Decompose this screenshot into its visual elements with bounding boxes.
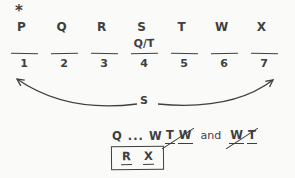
swap-arrow-left-curve: [17, 79, 137, 106]
letter-s: S: [122, 20, 162, 34]
swap-double-arrow: [6, 70, 286, 116]
slot-1-number: 1: [4, 57, 44, 70]
slots-row: 1 2 3 4 5 6 7: [4, 53, 284, 70]
conjunction-and: and: [201, 129, 222, 142]
forbidden-pair-tw: TW: [164, 128, 194, 146]
slot-6-number: 6: [204, 57, 244, 70]
forbidden-pair-wt: WT: [228, 128, 258, 146]
letter-t: T: [162, 20, 202, 34]
slot-4: 4: [124, 53, 164, 70]
boxed-letter-r: R: [121, 150, 132, 165]
swap-arrow-right-curve: [158, 80, 273, 105]
letter-p: P: [2, 20, 42, 34]
slot-6: 6: [204, 53, 244, 70]
rule-rx-block-box: R X: [111, 146, 164, 170]
slot-3-number: 3: [84, 57, 124, 70]
slot-5-number: 5: [164, 57, 204, 70]
slot-5-blank-line: [170, 53, 197, 54]
letter-x: X: [242, 20, 282, 34]
swap-arrow-label: S: [140, 94, 148, 107]
slot-7-number: 7: [244, 57, 284, 70]
sequencing-game-diagram: * P Q R S T W X Q/T 1 2 3 4 5: [0, 0, 295, 178]
star-annotation: *: [15, 2, 23, 20]
slot-5: 5: [164, 53, 204, 70]
slot-3: 3: [84, 53, 124, 70]
letter-r: R: [82, 20, 122, 34]
slot-2-number: 2: [44, 57, 84, 70]
slot-7-blank-line: [250, 53, 277, 54]
slot-4-note: Q/T: [127, 36, 161, 50]
letter-q: Q: [42, 20, 82, 34]
slot-4-number: 4: [124, 57, 164, 70]
slot-2: 2: [44, 53, 84, 70]
slot-7: 7: [244, 53, 284, 70]
slot-3-blank-line: [90, 53, 117, 54]
slot-1-blank-line: [10, 53, 37, 54]
boxed-letter-x: X: [143, 150, 154, 165]
rule-q-before-w: Q ... W: [112, 129, 163, 143]
rule-forbidden-pairs: TW and WT: [164, 128, 258, 146]
letters-row: P Q R S T W X: [2, 20, 282, 34]
slot-4-blank-line: [130, 53, 157, 55]
letter-w: W: [202, 20, 242, 34]
slot-6-blank-line: [210, 53, 237, 55]
slot-1: 1: [4, 53, 44, 70]
slot-2-blank-line: [50, 53, 77, 55]
